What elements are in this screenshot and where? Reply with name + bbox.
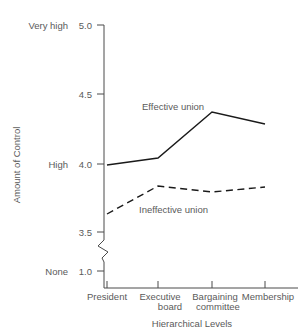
series-annotation-ineffective-union: Ineffective union: [139, 204, 208, 215]
y-word-label-high: High: [48, 159, 68, 170]
chart-figure: 5.0 4.5 4.0 3.5 1.0 Very high High None …: [0, 0, 307, 331]
x-category-label-bargaining-committee-line2: committee: [196, 301, 240, 312]
x-category-label-membership: Membership: [242, 291, 294, 302]
y-tick-label-4-5: 4.5: [79, 89, 92, 100]
y-axis-title: Amount of Control: [11, 127, 22, 204]
line-chart-svg: 5.0 4.5 4.0 3.5 1.0 Very high High None …: [0, 0, 307, 331]
x-axis-title: Hierarchical Levels: [152, 318, 233, 329]
y-axis: 5.0 4.5 4.0 3.5 1.0 Very high High None …: [11, 20, 108, 289]
effective-union-line: [107, 112, 265, 165]
y-tick-label-1-0: 1.0: [79, 266, 92, 277]
x-category-label-president: President: [87, 291, 127, 302]
y-tick-label-4-0: 4.0: [79, 159, 92, 170]
y-word-label-none: None: [45, 266, 68, 277]
x-axis: President Executive board Bargaining com…: [87, 281, 298, 329]
y-tick-label-5-0: 5.0: [79, 20, 92, 31]
y-tick-label-3-5: 3.5: [79, 227, 92, 238]
series-effective-union: [107, 112, 265, 165]
series-annotation-effective-union: Effective union: [142, 101, 204, 112]
x-category-label-executive-board-line2: board: [158, 301, 182, 312]
y-axis-break-zigzag: [98, 232, 108, 271]
y-word-label-very-high: Very high: [28, 20, 68, 31]
